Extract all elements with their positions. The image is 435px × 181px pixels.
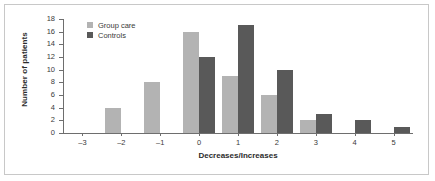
y-axis-tick-label: 0 — [51, 128, 55, 137]
bar-group-care--1 — [144, 82, 160, 133]
x-axis-tick — [82, 133, 83, 136]
y-axis-title: Number of patients — [20, 15, 29, 125]
y-axis-tick-label: 2 — [51, 115, 55, 124]
x-axis-tick-label: 4 — [343, 138, 367, 147]
bar-controls-1 — [238, 25, 254, 133]
bar-controls-5 — [394, 127, 410, 133]
x-axis-tick-label: 0 — [187, 138, 211, 147]
x-axis-tick — [238, 133, 239, 136]
bar-group-care-0 — [183, 32, 199, 133]
x-axis-tick-label: –3 — [70, 138, 94, 147]
y-axis-tick: 0 — [59, 133, 63, 134]
y-axis-tick-label: 8 — [51, 77, 55, 86]
bar-group-care-2 — [261, 95, 277, 133]
bar-controls-3 — [316, 114, 332, 133]
legend-swatch-group-care — [87, 22, 93, 28]
x-axis-tick-label: 2 — [265, 138, 289, 147]
x-axis-title: Decreases/Increases — [63, 151, 413, 160]
x-axis-tick-label: 3 — [304, 138, 328, 147]
legend-item-controls: Controls — [87, 30, 136, 40]
x-axis-tick — [355, 133, 356, 136]
x-axis-tick-label: 5 — [382, 138, 406, 147]
chart-legend: Group care Controls — [87, 20, 136, 40]
x-axis-tick — [316, 133, 317, 136]
y-axis-tick-label: 12 — [47, 52, 55, 61]
bar-group-care-1 — [222, 76, 238, 133]
bar-group-care-3 — [300, 120, 316, 133]
x-axis-tick — [121, 133, 122, 136]
x-axis-tick — [160, 133, 161, 136]
y-axis-tick-label: 16 — [47, 27, 55, 36]
y-axis-tick-label: 6 — [51, 90, 55, 99]
x-axis-tick-label: –2 — [109, 138, 133, 147]
chart-figure: Number of patients 024681012141618 –3–2–… — [4, 4, 429, 175]
y-axis-tick-label: 4 — [51, 103, 55, 112]
y-axis-tick-label: 18 — [47, 14, 55, 23]
x-axis-tick-label: 1 — [226, 138, 250, 147]
x-axis-tick-label: –1 — [148, 138, 172, 147]
x-axis-tick — [199, 133, 200, 136]
legend-label-group-care: Group care — [98, 21, 136, 30]
bar-group-care--2 — [105, 108, 121, 133]
x-axis-tick — [394, 133, 395, 136]
bar-controls-2 — [277, 70, 293, 133]
x-axis-tick — [277, 133, 278, 136]
y-axis-tick-label: 14 — [47, 39, 55, 48]
bar-controls-0 — [199, 57, 215, 133]
bar-controls-4 — [355, 120, 371, 133]
y-axis-tick-label: 10 — [47, 65, 55, 74]
legend-item-group-care: Group care — [87, 20, 136, 30]
legend-label-controls: Controls — [98, 31, 126, 40]
legend-swatch-controls — [87, 32, 93, 38]
